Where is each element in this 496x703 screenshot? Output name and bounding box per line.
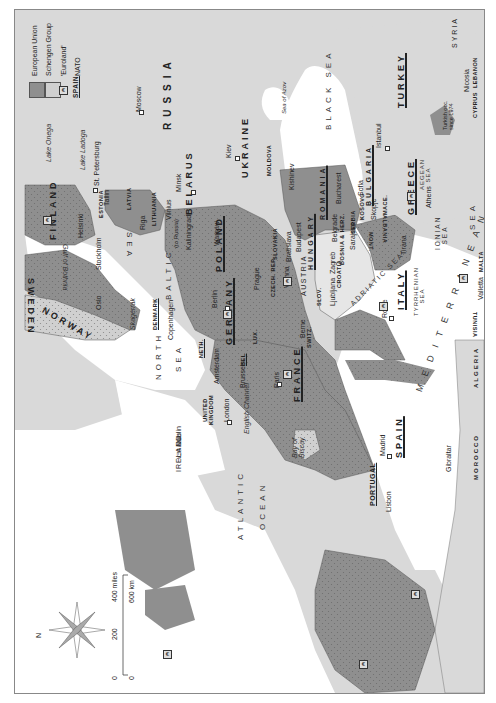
water-english-channel: English Channel bbox=[243, 383, 250, 434]
water-ionian: IONIAN SEA bbox=[435, 220, 448, 250]
label-syria: SYRIA bbox=[451, 17, 458, 48]
label-morocco: MOROCCO bbox=[473, 434, 479, 480]
city-marker bbox=[191, 190, 196, 195]
city-madrid: Madrid bbox=[379, 435, 386, 456]
city-gibraltar: Gibraltar bbox=[445, 445, 452, 472]
city-kaliningrad: Kaliningrad bbox=[185, 215, 192, 250]
label-ukraine: UKRAINE bbox=[241, 116, 250, 178]
label-switz: SWITZ. bbox=[307, 326, 313, 348]
label-italy: ITALY bbox=[397, 270, 406, 310]
label-romania: ROMANIA bbox=[319, 166, 326, 220]
legend-label-schengen: Schengen Group bbox=[45, 23, 52, 76]
euro-icon: € bbox=[283, 370, 292, 379]
label-russia: RUSSIA bbox=[163, 56, 173, 130]
water-ocean: OCEAN bbox=[259, 482, 267, 530]
label-czech: CZECH. REP. bbox=[271, 257, 277, 297]
city-marker bbox=[235, 156, 240, 161]
water-lake-onega: Lake Onega bbox=[45, 124, 52, 162]
city-belgrade: Belgrade bbox=[331, 214, 338, 242]
legend-swatch-eu bbox=[29, 82, 45, 98]
city-vilnius: Vilnius bbox=[165, 200, 172, 221]
euro-icon: € bbox=[283, 277, 292, 286]
city-budapest: Budapest bbox=[295, 222, 302, 252]
city-marker bbox=[139, 110, 144, 115]
label-neth: NETH. bbox=[199, 339, 205, 358]
city-amsterdam: Amsterdam bbox=[213, 348, 220, 384]
label-cyprus: CYPRUS bbox=[473, 92, 479, 118]
label-slovakia: SLOVAKIA bbox=[273, 228, 279, 260]
water-irish-sea: IRISH SEA bbox=[176, 432, 182, 459]
water-bay-of-biscay: Bay of Biscay bbox=[291, 430, 305, 458]
euro-icon: € bbox=[359, 660, 368, 669]
city-kaliningrad-note: (to Russia) bbox=[173, 219, 179, 248]
city-marker bbox=[385, 146, 390, 151]
city-st-petersburg: St. Petersburg bbox=[93, 141, 100, 186]
scale-miles-400: 400 miles bbox=[111, 572, 118, 602]
label-bosnia: BOSNIA & HERZ. bbox=[340, 213, 346, 265]
water-lake-ladoga: Lake Ladoga bbox=[79, 130, 86, 170]
label-greece: GREECE bbox=[407, 159, 416, 215]
label-albania: ALBANIA bbox=[382, 215, 388, 243]
city-nicosia: Nicosia bbox=[463, 69, 470, 92]
label-lithuania: LITHUANIA bbox=[152, 192, 158, 226]
city-riga: Riga bbox=[139, 216, 146, 230]
city-marker bbox=[389, 316, 394, 321]
city-tallin: Tallin bbox=[103, 190, 110, 206]
label-lebanon: LEBANON bbox=[473, 57, 479, 88]
city-prague: Prague bbox=[253, 267, 260, 290]
city-skopje: Skopje bbox=[370, 199, 377, 220]
legend-label-eu: European Union bbox=[31, 25, 38, 76]
label-spain: SPAIN bbox=[395, 416, 404, 458]
label-sweden: SWEDEN bbox=[26, 278, 35, 336]
map-frame: € European Union Schengen Group 'Eurolan… bbox=[14, 9, 485, 694]
label-bulgaria: BULGARIA bbox=[365, 145, 372, 206]
city-moscow: Moscow bbox=[135, 86, 142, 112]
label-mace: MACE. bbox=[383, 195, 389, 215]
euro-icon: € bbox=[163, 650, 172, 659]
city-berlin: Berlin bbox=[211, 290, 218, 308]
scale-miles-0: 0 bbox=[111, 676, 118, 680]
water-med-sea: SEA bbox=[469, 202, 477, 230]
city-marker bbox=[93, 188, 98, 193]
euro-icon: € bbox=[379, 302, 388, 311]
water-baltic-sea: SEA bbox=[125, 232, 133, 260]
label-moldova: MOLDOVA bbox=[267, 145, 273, 176]
euro-icon: € bbox=[407, 192, 416, 201]
city-bratislava: Bratislava bbox=[285, 231, 292, 262]
city-marker bbox=[225, 306, 230, 311]
label-slov: SLOV. bbox=[317, 288, 323, 307]
water-gulf-of-bothnia: Gulf of Bothnia bbox=[62, 244, 69, 290]
city-minsk: Minsk bbox=[175, 174, 182, 192]
city-sarajevo: Sarajevo bbox=[349, 222, 356, 250]
label-algeria: ALGERIA bbox=[473, 347, 479, 388]
water-north-sea: SEA bbox=[175, 344, 183, 372]
label-turkey: TURKEY bbox=[397, 53, 406, 108]
label-latvia: LATVIA bbox=[127, 188, 133, 210]
city-marker bbox=[387, 454, 392, 459]
water-atlantic: ATLANTIC bbox=[237, 470, 245, 540]
label-hungary: HUNGARY bbox=[307, 214, 314, 270]
water-north: NORTH bbox=[155, 332, 163, 380]
city-zagreb: Zagreb bbox=[329, 252, 336, 274]
water-sea-of-azov: Sea of Azov bbox=[281, 82, 287, 114]
water-aegean: AEGEAN SEA bbox=[419, 160, 431, 190]
scale-km-600: 600 km bbox=[128, 580, 135, 603]
city-kishinev: Kishinev bbox=[288, 164, 295, 190]
city-istanbul: Istanbul bbox=[375, 123, 382, 148]
compass-north-label: N bbox=[35, 633, 42, 638]
city-berne: Berne bbox=[299, 319, 306, 338]
water-baltic: BALTIC bbox=[165, 249, 173, 300]
city-london: London bbox=[223, 399, 230, 422]
label-mont: MONT. bbox=[368, 232, 374, 252]
label-uk: UNITED KINGDOM bbox=[203, 390, 214, 430]
legend-label-euroland: 'Euroland' bbox=[60, 45, 67, 76]
legend-sample-nato: SPAIN bbox=[73, 76, 80, 98]
city-oslo: Oslo bbox=[95, 296, 102, 310]
label-austria: AUSTRIA bbox=[300, 255, 307, 296]
label-malta: MALTA bbox=[479, 251, 485, 272]
euro-icon: € bbox=[459, 274, 468, 283]
city-helsinki: Helsinki bbox=[77, 213, 84, 238]
city-marker bbox=[277, 382, 282, 387]
city-kiev: Kiev bbox=[225, 144, 232, 158]
city-lisbon: Lisbon bbox=[385, 491, 392, 512]
